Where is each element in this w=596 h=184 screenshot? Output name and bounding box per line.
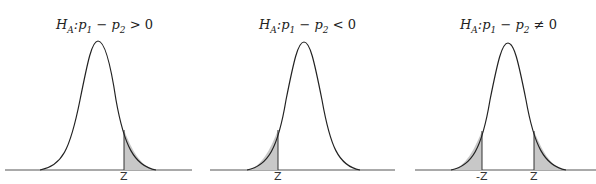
panel-3-title: HA:p1 − p2 ≠ 0 xyxy=(460,17,557,35)
p1: p xyxy=(482,17,490,32)
minus: − xyxy=(496,17,515,32)
normal-curve xyxy=(40,41,156,170)
minus: − xyxy=(295,17,314,32)
minus: − xyxy=(92,17,111,32)
normal-curve xyxy=(451,43,566,170)
p2: p xyxy=(515,17,523,32)
rejection-region-left xyxy=(452,131,482,170)
hypothesis-symbol: H xyxy=(259,17,270,32)
critical-value-label: Z xyxy=(120,170,128,183)
p1: p xyxy=(78,17,86,32)
rejection-region-left xyxy=(248,130,278,170)
p2: p xyxy=(111,17,119,32)
panel-left-tailed xyxy=(210,42,395,170)
relation: < 0 xyxy=(329,17,356,32)
p1: p xyxy=(281,17,289,32)
rejection-region-right xyxy=(534,131,564,170)
critical-value-label-negative: -Z xyxy=(476,170,488,183)
panel-2-title: HA:p1 − p2 < 0 xyxy=(259,17,356,35)
panel-right-tailed xyxy=(5,41,192,170)
panel-two-tailed xyxy=(415,43,596,170)
relation: > 0 xyxy=(126,17,153,32)
panel-1-title: HA:p1 − p2 > 0 xyxy=(56,17,153,35)
relation: ≠ 0 xyxy=(530,17,557,32)
p2: p xyxy=(314,17,322,32)
critical-value-label: Z xyxy=(274,170,282,183)
normal-curve xyxy=(247,42,360,170)
rejection-region-right xyxy=(124,130,155,170)
hypothesis-symbol: H xyxy=(56,17,67,32)
critical-value-label-positive: Z xyxy=(530,170,538,183)
hypothesis-symbol: H xyxy=(460,17,471,32)
